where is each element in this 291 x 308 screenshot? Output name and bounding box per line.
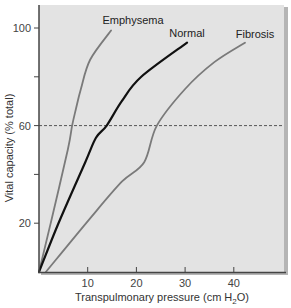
y-tick-label: 20: [19, 217, 31, 229]
y-tick-label: 100: [13, 22, 31, 34]
series-label-normal: Normal: [169, 27, 204, 39]
y-tick-label: 60: [19, 120, 31, 132]
x-tick-label: 30: [179, 277, 191, 289]
series-label-emphysema: Emphysema: [102, 14, 164, 26]
x-tick-label: 10: [82, 277, 94, 289]
x-axis-title: Transpulmonary pressure (cm H2O): [75, 291, 249, 306]
plot-area: [39, 5, 284, 272]
y-axis-title: Vital capacity (% total): [3, 94, 15, 203]
chart: 10203040 2060100 EmphysemaNormalFibrosis…: [0, 0, 291, 308]
series-label-fibrosis: Fibrosis: [236, 28, 275, 40]
x-tick-label: 20: [130, 277, 142, 289]
y-axis-ticks: 2060100: [13, 22, 39, 229]
x-tick-label: 40: [228, 277, 240, 289]
